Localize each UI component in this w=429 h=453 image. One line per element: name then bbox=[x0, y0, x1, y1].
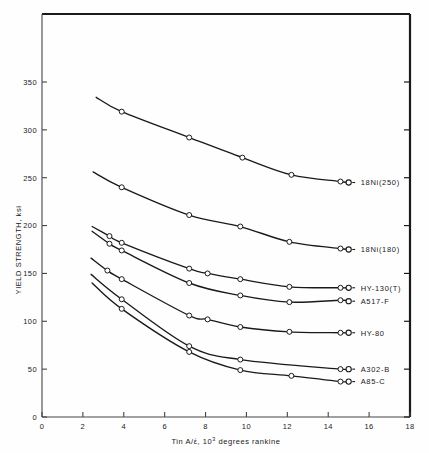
y-tick-label: 150 bbox=[23, 269, 37, 278]
data-point-marker bbox=[205, 271, 210, 276]
data-point-marker bbox=[187, 313, 192, 318]
series-line bbox=[93, 172, 349, 250]
data-point-marker bbox=[287, 300, 292, 305]
data-point-marker bbox=[238, 293, 243, 298]
x-tick-label: 10 bbox=[242, 422, 251, 431]
y-tick-label: 0 bbox=[32, 413, 37, 422]
y-axis-title: YIELD STRENGTH, ksi bbox=[14, 206, 23, 295]
series-label-hy-130-t: HY-130(T) bbox=[361, 284, 402, 293]
data-point-marker bbox=[338, 285, 343, 290]
plot-frame bbox=[42, 14, 410, 417]
data-point-marker bbox=[287, 329, 292, 334]
y-tick-label: 250 bbox=[23, 174, 37, 183]
x-tick-label: 4 bbox=[121, 422, 126, 431]
series-line bbox=[92, 227, 349, 288]
data-point-marker bbox=[187, 135, 192, 140]
series-label-a85-c: A85-C bbox=[361, 377, 386, 386]
series-line bbox=[96, 97, 348, 182]
x-axis-title: Tin A/έ, 103 degrees rankine bbox=[171, 436, 280, 446]
x-tick-label: 14 bbox=[324, 422, 333, 431]
y-tick-label: 350 bbox=[23, 78, 37, 87]
data-point-marker bbox=[338, 367, 343, 372]
data-point-marker bbox=[119, 248, 124, 253]
data-point-marker bbox=[338, 298, 343, 303]
series-line bbox=[92, 231, 349, 302]
series-label-a517-f: A517-F bbox=[361, 297, 390, 306]
x-tick-label: 6 bbox=[162, 422, 167, 431]
series-label-hy-80: HY-80 bbox=[361, 329, 385, 338]
data-point-marker bbox=[289, 172, 294, 177]
x-tick-label: 12 bbox=[283, 422, 292, 431]
data-point-marker bbox=[238, 357, 243, 362]
series-end-marker bbox=[346, 285, 351, 290]
data-point-marker bbox=[287, 239, 292, 244]
data-point-marker bbox=[238, 224, 243, 229]
series-end-marker bbox=[346, 180, 351, 185]
series-end-marker bbox=[346, 379, 351, 384]
data-point-marker bbox=[287, 284, 292, 289]
data-point-marker bbox=[338, 330, 343, 335]
data-point-marker bbox=[187, 281, 192, 286]
series-end-marker bbox=[346, 330, 351, 335]
data-point-marker bbox=[119, 109, 124, 114]
data-point-marker bbox=[119, 306, 124, 311]
series-end-marker bbox=[346, 299, 351, 304]
data-point-marker bbox=[338, 379, 343, 384]
series-line bbox=[91, 258, 349, 333]
data-point-marker bbox=[187, 213, 192, 218]
data-point-marker bbox=[119, 240, 124, 245]
data-point-marker bbox=[289, 373, 294, 378]
series-label-18ni-180: 18Ni(180) bbox=[361, 245, 400, 254]
data-point-marker bbox=[238, 277, 243, 282]
series-line bbox=[91, 274, 351, 369]
x-tick-label: 2 bbox=[81, 422, 86, 431]
data-point-marker bbox=[205, 317, 210, 322]
data-point-marker bbox=[338, 246, 343, 251]
data-point-marker bbox=[238, 368, 243, 373]
data-point-marker bbox=[107, 234, 112, 239]
data-point-marker bbox=[238, 325, 243, 330]
data-point-marker bbox=[240, 155, 245, 160]
data-point-marker bbox=[119, 185, 124, 190]
axis-tick-labels: 024681012141618050100150200250300350 bbox=[23, 78, 414, 431]
data-point-marker bbox=[187, 344, 192, 349]
y-tick-label: 50 bbox=[28, 365, 37, 374]
data-curves bbox=[91, 97, 351, 382]
series-end-marker bbox=[346, 247, 351, 252]
data-point-marker bbox=[119, 277, 124, 282]
x-tick-label: 18 bbox=[405, 422, 414, 431]
chart-canvas: 024681012141618050100150200250300350 18N… bbox=[0, 0, 429, 453]
data-point-marker bbox=[107, 241, 112, 246]
data-point-marker bbox=[187, 349, 192, 354]
x-tick-label: 0 bbox=[40, 422, 45, 431]
series-labels: 18Ni(250)18Ni(180)HY-130(T)A517-FHY-80A3… bbox=[361, 178, 402, 386]
series-label-18ni-250: 18Ni(250) bbox=[361, 178, 400, 187]
series-label-a302-b: A302-B bbox=[361, 365, 390, 374]
y-tick-label: 200 bbox=[23, 221, 37, 230]
data-point-marker bbox=[187, 266, 192, 271]
chart-figure: 024681012141618050100150200250300350 18N… bbox=[0, 0, 429, 453]
x-tick-label: 8 bbox=[203, 422, 208, 431]
series-end-marker bbox=[346, 367, 351, 372]
y-tick-label: 100 bbox=[23, 317, 37, 326]
data-point-marker bbox=[338, 179, 343, 184]
y-tick-label: 300 bbox=[23, 126, 37, 135]
data-point-marker bbox=[105, 268, 110, 273]
data-point-marker bbox=[119, 297, 124, 302]
x-tick-label: 16 bbox=[365, 422, 374, 431]
